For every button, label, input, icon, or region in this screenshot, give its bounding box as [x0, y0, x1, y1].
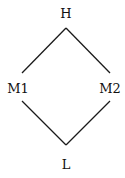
edge-h-m2: [66, 28, 110, 73]
edge-m1-l: [22, 101, 66, 145]
node-h-label: H: [60, 7, 71, 20]
edge-m2-l: [66, 101, 110, 145]
node-l-label: L: [62, 158, 71, 171]
lattice-diagram: H M1 M2 L: [0, 0, 125, 178]
node-m1-label: M1: [7, 82, 29, 95]
edge-h-m1: [22, 28, 66, 73]
node-m2-label: M2: [99, 82, 121, 95]
